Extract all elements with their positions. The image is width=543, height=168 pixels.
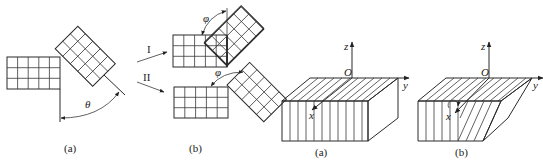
- path-label-I: I: [147, 43, 151, 55]
- phi-label-II: φ: [215, 66, 221, 78]
- grid-tilted-I-final: [204, 7, 263, 66]
- z-label-a: z: [343, 40, 349, 52]
- front-lamellae-a: [290, 101, 362, 141]
- panel-left-a: θ (a): [7, 26, 125, 155]
- y-label-a: y: [402, 79, 408, 91]
- grid-tilted-II: [227, 62, 286, 121]
- caption-right-a: (a): [315, 146, 328, 159]
- theta-label: θ: [85, 98, 91, 110]
- reference-line-diagonal: [104, 75, 125, 95]
- config-II: φ: [174, 62, 286, 121]
- top-hatch-a: [290, 78, 390, 101]
- grid-rect-II: [174, 87, 228, 118]
- block-side-a: [368, 78, 398, 141]
- caption-left-a: (a): [64, 142, 77, 155]
- origin-label-a: O: [344, 66, 352, 78]
- x-label-a: x: [308, 109, 314, 121]
- y-label-b: y: [532, 79, 538, 91]
- origin-label-b: O: [481, 66, 489, 78]
- path-label-II: II: [143, 71, 151, 83]
- front-lamellae-vertical-b: [426, 101, 458, 141]
- grid-rect-I: [173, 35, 227, 67]
- block-front-a: [282, 101, 368, 141]
- panel-left-b: I II: [137, 6, 286, 155]
- path-arrow-I: [137, 52, 167, 62]
- block-front-b: [418, 101, 501, 141]
- x-label-b: x: [445, 110, 451, 122]
- block-top-a: [282, 78, 398, 101]
- grid-rect: [7, 57, 60, 89]
- caption-right-b: (b): [455, 146, 468, 159]
- phi-label-I: φ: [203, 12, 209, 24]
- diagram-canvas: θ (a) I II: [0, 0, 543, 168]
- top-hatch-b: [426, 78, 526, 101]
- front-lamellae-tilted-b: [458, 101, 492, 141]
- z-label-b: z: [480, 40, 486, 52]
- panel-right-a: z O: [282, 40, 409, 159]
- path-arrow-II: [137, 82, 164, 92]
- panel-right-b: z O: [418, 40, 543, 159]
- block-top-b: [418, 78, 532, 101]
- caption-left-b: (b): [189, 142, 202, 155]
